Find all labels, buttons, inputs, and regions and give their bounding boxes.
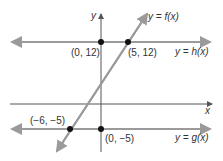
point-label-5-12: (5, 12) [128,47,157,58]
x-axis-label: x [204,105,211,116]
point-0-12 [98,39,104,45]
point-0-neg5 [98,126,104,132]
point-5-12 [125,39,131,45]
y-axis-label: y [90,10,97,21]
point-label-neg6-neg5: (−6, −5) [30,115,65,126]
g-label: y = g(x) [174,132,209,143]
point-label-0-12: (0, 12) [71,47,100,58]
f-label: y = f(x) [147,11,179,22]
point-neg6-neg5 [67,126,73,132]
graph-canvas: y x y = f(x) y = h(x) y = g(x) (0, 12) (… [0,0,223,161]
function-graph: y x y = f(x) y = h(x) y = g(x) (0, 12) (… [0,0,223,161]
point-label-0-neg5: (0, −5) [105,133,134,144]
h-label: y = h(x) [174,46,209,57]
